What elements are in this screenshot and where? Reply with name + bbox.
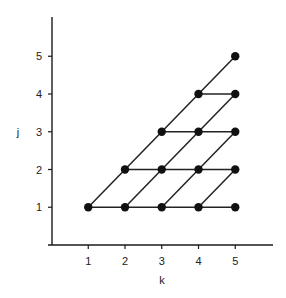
lattice-node bbox=[158, 165, 166, 173]
y-axis-ticks: 12345 bbox=[36, 50, 52, 213]
y-axis-title: j bbox=[16, 126, 19, 138]
x-tick-label: 3 bbox=[159, 255, 165, 267]
x-tick-label: 1 bbox=[85, 255, 91, 267]
lattice-node bbox=[158, 203, 166, 211]
x-tick-label: 5 bbox=[232, 255, 238, 267]
lattice-node bbox=[121, 165, 129, 173]
y-tick-label: 3 bbox=[36, 126, 42, 138]
x-axis-ticks: 12345 bbox=[85, 245, 238, 267]
lattice-node bbox=[231, 203, 239, 211]
diagonal-edge bbox=[125, 94, 235, 207]
lattice-node bbox=[194, 165, 202, 173]
diagonal-edge bbox=[199, 170, 236, 208]
y-tick-label: 1 bbox=[36, 201, 42, 213]
lattice-node bbox=[194, 203, 202, 211]
x-tick-label: 2 bbox=[122, 255, 128, 267]
lattice-node bbox=[231, 165, 239, 173]
lattice-node bbox=[121, 203, 129, 211]
lattice-node bbox=[158, 128, 166, 136]
lattice-node bbox=[231, 128, 239, 136]
lattice-node bbox=[84, 203, 92, 211]
lattice-diagram: 12345 12345 k j bbox=[0, 0, 286, 298]
y-tick-label: 5 bbox=[36, 50, 42, 62]
y-tick-label: 4 bbox=[36, 88, 42, 100]
x-tick-label: 4 bbox=[195, 255, 201, 267]
y-tick-label: 2 bbox=[36, 164, 42, 176]
lattice-node bbox=[194, 128, 202, 136]
lattice-node bbox=[194, 90, 202, 98]
x-axis-title: k bbox=[159, 274, 165, 286]
lattice-node bbox=[231, 90, 239, 98]
lattice-node bbox=[231, 52, 239, 60]
